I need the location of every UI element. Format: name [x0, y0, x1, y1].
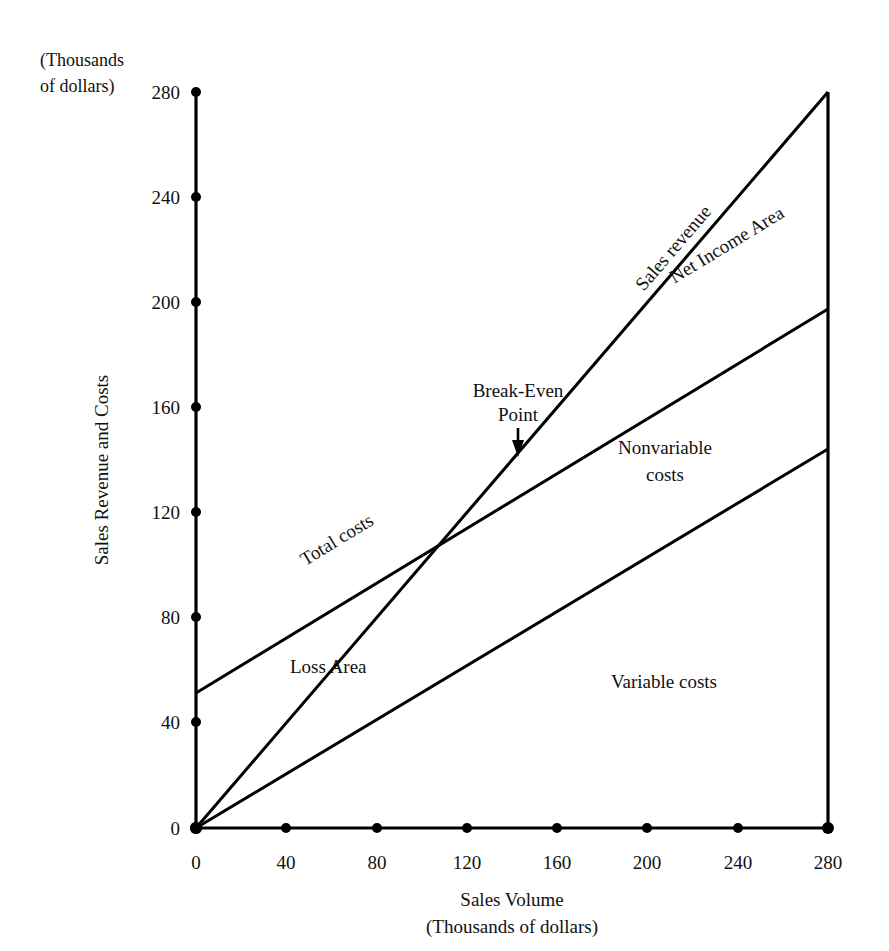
chart-canvas: 280 240 200 160 120 80 40 0 0 40 80 120 …: [0, 0, 889, 951]
series-line-total-costs: [196, 309, 828, 693]
break-even-label-line2: Point: [498, 404, 539, 425]
y-tick-label-200: 200: [152, 292, 181, 313]
y-tick-label-280: 280: [152, 82, 181, 103]
y-tick-label-160: 160: [152, 397, 181, 418]
y-tick-dot-80: [191, 612, 201, 622]
y-tick-dot-200: [191, 297, 201, 307]
break-even-label-line1: Break-Even: [473, 380, 564, 401]
x-tick-dot-200: [642, 823, 652, 833]
series-line-sales-revenue: [196, 92, 828, 828]
y-tick-dot-280: [191, 87, 201, 97]
y-tick-label-240: 240: [152, 187, 181, 208]
area-label-variable-costs: Variable costs: [611, 671, 717, 692]
x-tick-label-0: 0: [191, 852, 201, 873]
x-tick-label-40: 40: [277, 852, 296, 873]
x-tick-label-200: 200: [633, 852, 662, 873]
break-even-chart: 280 240 200 160 120 80 40 0 0 40 80 120 …: [0, 0, 889, 951]
x-axis-title: Sales Volume: [460, 889, 563, 910]
x-tick-label-280: 280: [814, 852, 843, 873]
x-tick-dot-240: [733, 823, 743, 833]
unit-note-line1: (Thousands: [40, 50, 124, 71]
y-tick-dot-120: [191, 507, 201, 517]
x-tick-dot-120: [462, 823, 472, 833]
area-label-loss: Loss Area: [290, 656, 367, 677]
y-tick-dot-240: [191, 192, 201, 202]
x-tick-label-80: 80: [368, 852, 387, 873]
x-tick-label-160: 160: [543, 852, 572, 873]
x-tick-label-120: 120: [453, 852, 482, 873]
area-label-nonvariable-costs-line2: costs: [646, 464, 684, 485]
x-tick-dot-40: [281, 823, 291, 833]
x-axis-subtitle: (Thousands of dollars): [426, 916, 598, 938]
area-label-nonvariable-costs-line1: Nonvariable: [618, 437, 712, 458]
y-tick-label-40: 40: [161, 712, 180, 733]
unit-note-line2: of dollars): [40, 76, 114, 97]
y-tick-label-80: 80: [161, 607, 180, 628]
y-axis-title: Sales Revenue and Costs: [91, 375, 112, 566]
x-tick-label-240: 240: [724, 852, 753, 873]
y-tick-label-120: 120: [152, 502, 181, 523]
y-tick-dot-160: [191, 402, 201, 412]
x-tick-dot-80: [372, 823, 382, 833]
x-tick-dot-160: [552, 823, 562, 833]
y-tick-dot-40: [191, 717, 201, 727]
x-tick-dot-280: [822, 822, 834, 834]
line-label-total-costs: Total costs: [296, 509, 377, 569]
series-line-variable-costs: [196, 449, 828, 828]
y-tick-label-0: 0: [171, 818, 181, 839]
